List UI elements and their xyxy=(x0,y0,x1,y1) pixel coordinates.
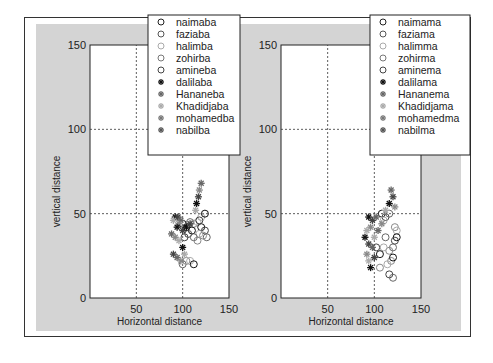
figure-canvas: 50100150050100150Horizontal distancevert… xyxy=(0,0,493,363)
x-tick-label: 50 xyxy=(130,303,142,315)
legend: naimabafaziabahalimbazohirbaaminebadalil… xyxy=(148,15,240,155)
legend-marker-star xyxy=(380,91,386,97)
scatter-plot-1: 50100150050100150Horizontal distancevert… xyxy=(51,15,240,327)
data-point-star xyxy=(175,237,182,244)
legend-label: faziaba xyxy=(176,28,210,40)
y-tick-label: 150 xyxy=(259,39,277,51)
data-point-star xyxy=(195,193,202,200)
legend-label: halimba xyxy=(176,40,213,52)
data-point-star xyxy=(365,257,372,264)
legend-label: nabilma xyxy=(398,124,435,136)
legend-marker-star xyxy=(158,79,164,85)
data-point-star xyxy=(198,180,205,187)
x-tick-label: 50 xyxy=(322,303,334,315)
x-tick-label: 150 xyxy=(412,303,430,315)
data-point-star xyxy=(170,217,177,224)
data-point-star xyxy=(390,193,397,200)
y-axis-label: vertical distance xyxy=(51,155,62,227)
x-tick-label: 100 xyxy=(365,303,383,315)
data-point-star xyxy=(179,244,186,251)
legend-label: naimaba xyxy=(176,16,216,28)
x-tick-label: 150 xyxy=(220,303,238,315)
legend-marker-star xyxy=(380,79,386,85)
legend-label: Hananeba xyxy=(176,88,225,100)
x-axis-label: Horizontal distance xyxy=(308,316,393,327)
data-point-star xyxy=(375,227,382,234)
legend-label: faziama xyxy=(398,28,435,40)
legend-marker-star xyxy=(158,103,164,109)
legend-marker-star xyxy=(158,91,164,97)
legend-marker-star xyxy=(158,127,164,133)
legend-marker-star xyxy=(380,127,386,133)
legend-label: Hananema xyxy=(398,88,450,100)
data-point-star xyxy=(193,200,200,207)
data-point-star xyxy=(362,234,369,241)
x-axis-label: Horizontal distance xyxy=(117,316,202,327)
data-point-star xyxy=(196,187,203,194)
legend-label: Khadidjaba xyxy=(176,100,229,112)
data-point-star xyxy=(378,220,385,227)
data-point-star xyxy=(187,220,194,227)
legend: naimamafaziamahalimmazohirmaaminemadalil… xyxy=(370,15,470,155)
y-tick-label: 0 xyxy=(80,292,86,304)
y-tick-label: 100 xyxy=(68,123,86,135)
y-tick-label: 50 xyxy=(74,208,86,220)
data-point-star xyxy=(382,207,389,214)
legend-marker-star xyxy=(380,103,386,109)
y-tick-label: 50 xyxy=(265,208,277,220)
legend-marker-star xyxy=(158,115,164,121)
data-point-star xyxy=(363,251,370,258)
data-point-star xyxy=(192,207,199,214)
y-axis-label: vertical distance xyxy=(242,155,253,227)
data-point-star xyxy=(363,227,370,234)
legend-label: aminema xyxy=(398,64,441,76)
data-point-star xyxy=(181,251,188,258)
legend-label: dalilama xyxy=(398,76,437,88)
legend-label: nabilba xyxy=(176,124,210,136)
data-point-star xyxy=(386,200,393,207)
legend-label: amineba xyxy=(176,64,216,76)
data-point-star xyxy=(391,203,398,210)
data-point-star xyxy=(371,234,378,241)
data-point-star xyxy=(371,254,378,261)
y-tick-label: 150 xyxy=(68,39,86,51)
legend-label: Khadidjama xyxy=(398,100,454,112)
data-point-star xyxy=(388,187,395,194)
data-point-star xyxy=(174,224,181,231)
legend-label: mohamedma xyxy=(398,112,459,124)
legend-label: dalilaba xyxy=(176,76,212,88)
scatter-plot-2: 50100150050100150Horizontal distancevert… xyxy=(242,15,470,327)
legend-marker-star xyxy=(380,115,386,121)
y-tick-label: 100 xyxy=(259,123,277,135)
legend-label: halimma xyxy=(398,40,438,52)
data-point-star xyxy=(369,244,376,251)
legend-label: zohirma xyxy=(398,52,436,64)
x-tick-label: 100 xyxy=(173,303,191,315)
data-point-star xyxy=(373,214,380,221)
legend-label: naimama xyxy=(398,16,441,28)
legend-label: mohamedba xyxy=(176,112,235,124)
y-tick-label: 0 xyxy=(271,292,277,304)
data-point-star xyxy=(367,264,374,271)
legend-label: zohirba xyxy=(176,52,211,64)
data-point-star xyxy=(177,257,184,264)
